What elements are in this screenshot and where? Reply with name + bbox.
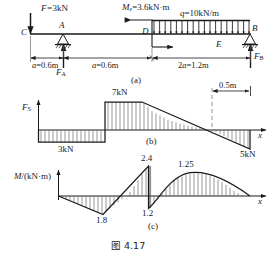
reaction-b-label: FB xyxy=(254,52,264,61)
moment-axis-label: M/(kN·m) xyxy=(14,172,51,181)
figure-canvas xyxy=(0,0,278,260)
shear-hatch-pos xyxy=(108,102,208,130)
point-c-label: C xyxy=(21,28,27,37)
shear-x-label: x xyxy=(258,131,262,140)
figure-caption: 图 4.17 xyxy=(111,241,145,251)
panel-label-a: (a) xyxy=(131,76,141,85)
dimension-label-2: 2a=1.2m xyxy=(178,61,209,70)
point-load-label: F=3kN xyxy=(41,4,68,13)
couple-label: Me=3.6kN·m xyxy=(122,3,170,12)
moment-annotation-1-2: 1.2 xyxy=(142,209,153,218)
moment-curve xyxy=(59,166,251,215)
shear-dim-label: 0.5m xyxy=(219,81,236,90)
moment-annotation-1-8: 1.8 xyxy=(96,216,107,225)
point-e-label: E xyxy=(216,40,222,49)
dimension-label-0: a=0.6m xyxy=(32,61,58,70)
moment-panel xyxy=(58,166,266,215)
panel-label-b: (b) xyxy=(146,137,157,146)
shear-hatch-neg1 xyxy=(41,130,101,142)
panel-label-c: (c) xyxy=(148,222,158,231)
point-a-label: A xyxy=(59,21,65,30)
distributed-load xyxy=(152,21,250,35)
shear-hatch-neg2 xyxy=(216,130,248,148)
moment-annotation-2-4: 2.4 xyxy=(141,154,152,163)
dimension-label-1: a=0.6m xyxy=(92,61,118,70)
shear-annotation-7kn: 7kN xyxy=(112,88,128,97)
shear-axis-label: FS xyxy=(22,103,31,112)
udl-label: q=10kN/m xyxy=(180,9,219,18)
point-b-label: B xyxy=(252,24,258,33)
moment-annotation-1-25: 1.25 xyxy=(178,160,194,169)
point-d-label: D xyxy=(142,27,149,36)
moment-x-label: x xyxy=(258,197,262,206)
moment-hatch-parabola xyxy=(154,173,246,203)
moment-hatch-drop xyxy=(149,166,150,208)
shear-annotation-5kn: 5kN xyxy=(240,150,256,159)
shear-annotation-3kn: 3kN xyxy=(58,145,74,154)
